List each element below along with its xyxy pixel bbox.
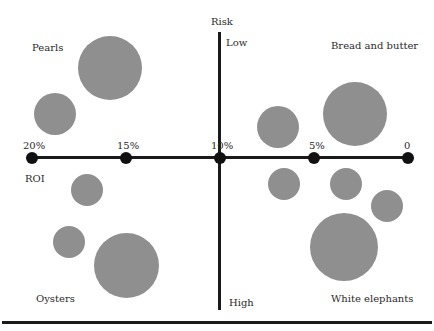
bubble-pearls-large	[78, 36, 142, 100]
bubble-oysters-small	[53, 226, 85, 258]
bottom-rule	[2, 321, 432, 324]
quadrant-label-pearls: Pearls	[32, 43, 63, 53]
tick-dot-0	[402, 152, 414, 164]
quadrant-label-oysters: Oysters	[36, 294, 75, 304]
bubble-elephants-2	[330, 168, 362, 200]
tick-label-5: 5%	[309, 141, 325, 151]
tick-label-15: 15%	[117, 141, 139, 151]
tick-dot-5	[308, 152, 320, 164]
bubble-elephants-3	[371, 190, 403, 222]
high-label: High	[229, 298, 254, 308]
bubble-oysters-large	[94, 233, 159, 298]
bubble-oysters-top	[71, 174, 103, 206]
risk-axis-line	[218, 32, 221, 310]
bubble-elephants-large	[310, 213, 378, 281]
quadrant-label-bread-and-butter: Bread and butter	[331, 41, 418, 51]
tick-label-20: 20%	[23, 141, 45, 151]
tick-dot-15	[120, 152, 132, 164]
bubble-pearls-small	[34, 93, 76, 135]
tick-label-0: 0	[404, 141, 410, 151]
bubble-elephants-1	[268, 168, 300, 200]
roi-label: ROI	[25, 174, 45, 184]
bubble-bread-large	[323, 82, 387, 146]
tick-dot-10	[214, 152, 226, 164]
tick-dot-20	[26, 152, 38, 164]
tick-label-10: 10%	[211, 141, 233, 151]
bubble-bread-small	[257, 106, 299, 148]
quadrant-label-white-elephants: White elephants	[331, 294, 413, 304]
risk-label: Risk	[211, 17, 233, 27]
low-label: Low	[226, 38, 247, 48]
